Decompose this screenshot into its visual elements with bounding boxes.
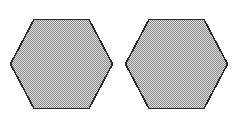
hexagons-figure [0, 0, 232, 116]
figure-canvas [0, 0, 232, 116]
